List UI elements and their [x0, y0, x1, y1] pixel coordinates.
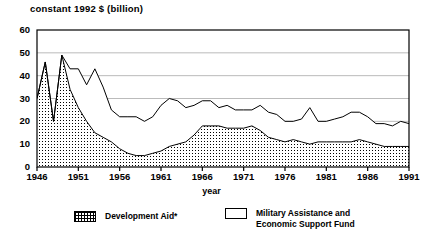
y-tick-label: 50 — [8, 48, 30, 58]
x-tick-label: 1971 — [227, 172, 261, 182]
legend-item-development-aid: Development Aid* — [74, 211, 177, 222]
x-tick-label: 1991 — [392, 172, 423, 182]
x-tick-label: 1951 — [61, 172, 95, 182]
x-tick-label: 1976 — [268, 172, 302, 182]
x-tick-label: 1961 — [144, 172, 178, 182]
legend-swatch-dotted-icon — [74, 211, 96, 222]
x-tick-label: 1956 — [103, 172, 137, 182]
x-tick-label: 1986 — [351, 172, 385, 182]
x-tick-label: 1966 — [185, 172, 219, 182]
y-tick-label: 20 — [8, 116, 30, 126]
chart-legend: Development Aid* Military Assistance and… — [0, 208, 423, 241]
x-tick-label: 1946 — [20, 172, 54, 182]
legend-swatch-plain-icon — [225, 208, 247, 219]
chart-figure: constant 1992 $ (billion) 0102030405060 … — [0, 0, 423, 241]
y-tick-label: 40 — [8, 71, 30, 81]
legend-label-development-aid: Development Aid* — [105, 211, 177, 222]
y-tick-label: 10 — [8, 139, 30, 149]
x-axis-title: year — [0, 186, 423, 196]
x-tick-label: 1981 — [309, 172, 343, 182]
x-axis-ticks — [37, 167, 409, 171]
legend-label-military-assistance: Military Assistance and Economic Support… — [256, 208, 355, 229]
y-tick-label: 60 — [8, 25, 30, 35]
legend-item-military-assistance: Military Assistance and Economic Support… — [225, 208, 355, 229]
plot-canvas — [0, 0, 423, 241]
y-tick-label: 30 — [8, 94, 30, 104]
